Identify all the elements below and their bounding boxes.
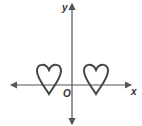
right-heart: [84, 65, 108, 94]
left-heart: [37, 65, 61, 94]
x-axis-label: x: [130, 86, 137, 97]
coordinate-plane: y O x: [0, 0, 142, 126]
origin-label: O: [63, 88, 71, 99]
y-axis-label: y: [61, 2, 68, 13]
